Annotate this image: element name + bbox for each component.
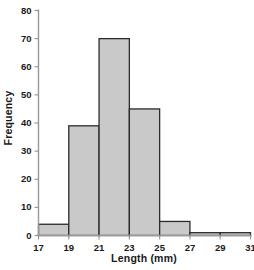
- y-tick-label: 70: [21, 33, 32, 44]
- y-axis-ticks: 01020304050607080: [21, 5, 39, 241]
- x-axis-ticks: 1719212325272931: [33, 236, 254, 253]
- y-tick-label: 80: [21, 5, 32, 16]
- x-tick-label: 29: [215, 242, 226, 253]
- y-tick-label: 30: [21, 145, 32, 156]
- x-tick-label: 21: [94, 242, 105, 253]
- plot-area: 01020304050607080 1719212325272931: [0, 0, 254, 270]
- y-tick-label: 60: [21, 61, 32, 72]
- y-tick-label: 10: [21, 201, 32, 212]
- x-tick-label: 25: [154, 242, 165, 253]
- x-axis-title: Length (mm): [37, 252, 251, 264]
- y-tick-label: 20: [21, 173, 32, 184]
- x-tick-label: 17: [33, 242, 44, 253]
- histogram-bar: [129, 109, 159, 236]
- x-tick-label: 31: [245, 242, 254, 253]
- bar-series: [39, 39, 251, 236]
- y-tick-label: 50: [21, 89, 32, 100]
- x-tick-label: 27: [185, 242, 196, 253]
- x-tick-label: 23: [124, 242, 135, 253]
- histogram-chart: Frequency 01020304050607080 171921232527…: [0, 0, 254, 270]
- x-tick-label: 19: [63, 242, 74, 253]
- histogram-bar: [69, 126, 99, 236]
- y-tick-label: 0: [26, 230, 31, 241]
- histogram-bar: [39, 224, 69, 235]
- histogram-bar: [99, 39, 129, 236]
- y-tick-label: 40: [21, 117, 32, 128]
- histogram-bar: [160, 221, 190, 235]
